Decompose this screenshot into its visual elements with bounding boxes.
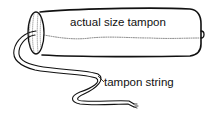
tampon-string (14, 31, 138, 108)
tampon-string-label: tampon string (104, 77, 174, 89)
cap-stipple (30, 14, 42, 52)
seam-line (44, 35, 200, 39)
tampon-diagram: actual size tampon tampon string (0, 0, 214, 117)
tampon-body-label: actual size tampon (70, 17, 166, 29)
